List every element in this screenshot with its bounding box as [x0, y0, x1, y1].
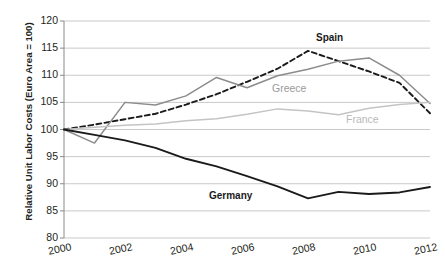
series-label-spain: Spain	[316, 32, 343, 43]
series-line-germany	[64, 130, 430, 199]
y-tick-label: 105	[28, 95, 58, 107]
gridlines-group	[64, 21, 430, 238]
y-tick-label: 115	[28, 41, 58, 53]
y-tick-label: 85	[28, 204, 58, 216]
series-label-germany: Germany	[209, 190, 252, 201]
chart-container: Relative Unit Labor Costs (Euro Area = 1…	[0, 0, 445, 271]
series-line-greece	[64, 58, 430, 143]
y-tick-label: 95	[28, 150, 58, 162]
line-chart-plot	[0, 0, 445, 271]
y-tick-label: 100	[28, 123, 58, 135]
y-tick-label: 90	[28, 177, 58, 189]
series-label-greece: Greece	[272, 82, 306, 94]
y-tick-label: 80	[28, 231, 58, 243]
y-tick-label: 110	[28, 68, 58, 80]
y-tick-label: 120	[28, 14, 58, 26]
series-label-france: France	[346, 113, 379, 125]
